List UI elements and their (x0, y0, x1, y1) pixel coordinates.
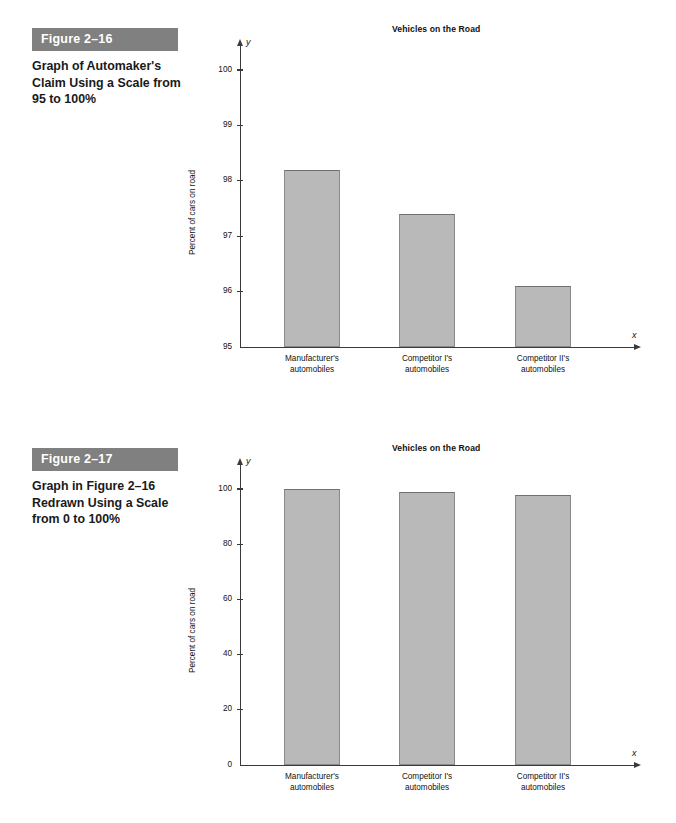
bar-2-2[interactable] (515, 495, 571, 765)
category-label-line: automobiles (483, 365, 603, 376)
category-label-line: Competitor I's (367, 772, 487, 783)
y-tick-label-2-1: 20 (198, 704, 232, 713)
y-tick-label-1-0: 95 (198, 342, 232, 351)
bar-1-2[interactable] (515, 286, 571, 347)
y-tick-1-1 (237, 291, 243, 292)
x-axis-arrow-1 (634, 344, 641, 350)
y-axis-letter-2: y (246, 456, 251, 466)
y-axis-line-2 (240, 465, 241, 766)
x-axis-letter-2: x (632, 748, 637, 758)
y-tick-label-1-4: 99 (198, 120, 232, 129)
x-axis-arrow-2 (634, 762, 641, 768)
category-label-2-1: Competitor I'sautomobiles (367, 772, 487, 793)
category-label-line: automobiles (252, 783, 372, 794)
bar-2-0[interactable] (284, 489, 340, 765)
y-tick-label-1-2: 97 (198, 231, 232, 240)
y-tick-1-5 (237, 69, 243, 70)
category-label-line: automobiles (367, 365, 487, 376)
y-tick-label-1-3: 98 (198, 175, 232, 184)
y-tick-1-3 (237, 180, 243, 181)
figure-banner-label-1: Figure 2–16 (32, 28, 178, 51)
category-label-line: Manufacturer's (252, 354, 372, 365)
x-axis-line-1 (240, 347, 634, 348)
category-label-line: automobiles (252, 365, 372, 376)
chart-title-1: Vehicles on the Road (392, 24, 480, 34)
category-label-2-2: Competitor II'sautomobiles (483, 772, 603, 793)
category-label-line: automobiles (367, 783, 487, 794)
category-label-1-1: Competitor I'sautomobiles (367, 354, 487, 375)
category-label-line: automobiles (483, 783, 603, 794)
y-tick-label-1-5: 100 (198, 65, 232, 74)
y-axis-letter-1: y (246, 37, 251, 47)
category-label-2-0: Manufacturer'sautomobiles (252, 772, 372, 793)
bar-2-1[interactable] (399, 492, 455, 765)
y-tick-2-4 (237, 544, 243, 545)
figure-caption-block-2: Figure 2–17 Graph in Figure 2–16 Redrawn… (32, 448, 192, 528)
figure-banner-label-2: Figure 2–17 (32, 448, 178, 471)
figure-caption-text-2: Graph in Figure 2–16 Redrawn Using a Sca… (32, 478, 187, 528)
y-tick-label-2-5: 100 (198, 484, 232, 493)
x-axis-letter-1: x (632, 330, 637, 340)
bar-1-1[interactable] (399, 214, 455, 347)
y-axis-title-2: Percent of cars on road (188, 588, 197, 673)
category-label-line: Competitor II's (483, 772, 603, 783)
category-label-line: Competitor II's (483, 354, 603, 365)
category-label-1-0: Manufacturer'sautomobiles (252, 354, 372, 375)
category-label-line: Competitor I's (367, 354, 487, 365)
y-tick-label-2-0: 0 (198, 760, 232, 769)
y-axis-line-1 (240, 46, 241, 348)
y-axis-arrow-1 (237, 39, 243, 46)
category-label-line: Manufacturer's (252, 772, 372, 783)
y-axis-title-1: Percent of cars on road (188, 169, 197, 254)
y-tick-label-2-2: 40 (198, 649, 232, 658)
figure-caption-block-1: Figure 2–16 Graph of Automaker's Claim U… (32, 28, 192, 108)
y-tick-1-2 (237, 236, 243, 237)
y-tick-1-4 (237, 125, 243, 126)
y-tick-label-2-4: 80 (198, 539, 232, 548)
x-axis-line-2 (240, 765, 634, 766)
y-axis-arrow-2 (237, 458, 243, 465)
category-label-1-2: Competitor II'sautomobiles (483, 354, 603, 375)
y-tick-2-3 (237, 599, 243, 600)
y-tick-2-1 (237, 709, 243, 710)
y-tick-2-5 (237, 488, 243, 489)
y-tick-label-2-3: 60 (198, 594, 232, 603)
y-tick-2-2 (237, 654, 243, 655)
chart-title-2: Vehicles on the Road (392, 443, 480, 453)
bar-1-0[interactable] (284, 170, 340, 347)
figure-caption-text-1: Graph of Automaker's Claim Using a Scale… (32, 58, 187, 108)
y-tick-label-1-1: 96 (198, 286, 232, 295)
